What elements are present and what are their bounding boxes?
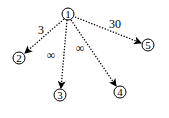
graph-diagram: 3 ∞ ∞ 30 1 2 3 4 5 <box>0 0 169 118</box>
node-4: 4 <box>114 86 126 98</box>
node-1-label: 1 <box>65 8 71 20</box>
node-3-label: 3 <box>57 89 63 101</box>
node-5-label: 5 <box>145 39 151 51</box>
node-2: 2 <box>13 52 25 64</box>
edge-label-1-3: ∞ <box>47 48 56 62</box>
node-4-label: 4 <box>117 86 123 98</box>
edge-label-1-5: 30 <box>109 17 121 31</box>
node-5: 5 <box>142 39 154 51</box>
edge-1-2 <box>25 19 64 53</box>
edge-label-1-2: 3 <box>38 23 44 37</box>
node-2-label: 2 <box>16 52 22 64</box>
node-1: 1 <box>62 8 74 20</box>
edge-labels: 3 ∞ ∞ 30 <box>38 17 121 62</box>
node-3: 3 <box>54 89 66 101</box>
edge-label-1-4: ∞ <box>76 41 85 55</box>
edge-1-5 <box>75 17 141 43</box>
edge-1-3 <box>61 20 67 88</box>
